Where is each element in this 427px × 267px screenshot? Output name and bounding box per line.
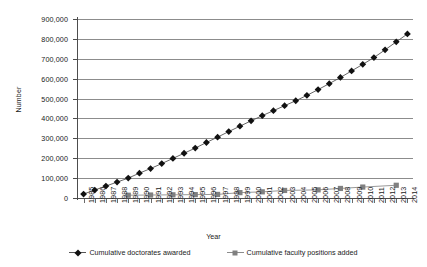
- x-axis-tick-label: 2014: [410, 187, 419, 203]
- x-axis-tick-mark: [407, 199, 408, 203]
- x-axis-tick-mark: [340, 199, 341, 203]
- legend-label-faculty: Cumulative faculty positions added: [247, 248, 358, 257]
- data-point-diamond: [181, 150, 188, 157]
- data-series-layer: [78, 19, 413, 198]
- y-axis-tick-mark: [73, 59, 78, 60]
- x-axis-tick-mark: [218, 199, 219, 203]
- data-point-diamond: [248, 117, 255, 124]
- y-axis-tick-label: 500,000: [41, 94, 68, 103]
- y-axis-tick-label: 900,000: [41, 15, 68, 24]
- x-axis-tick-mark: [385, 199, 386, 203]
- x-axis-tick-mark: [318, 199, 319, 203]
- y-axis-tick-mark: [73, 79, 78, 80]
- data-point-diamond: [371, 54, 378, 61]
- data-point-diamond: [259, 112, 266, 119]
- y-axis-tick-label: 600,000: [41, 74, 68, 83]
- x-axis-tick-mark: [251, 199, 252, 203]
- x-axis-tick-mark: [240, 199, 241, 203]
- diamond-marker-icon: [69, 249, 86, 257]
- x-axis-tick-mark: [262, 199, 263, 203]
- data-point-diamond: [170, 155, 177, 162]
- data-point-diamond: [292, 97, 299, 104]
- data-point-diamond: [114, 179, 121, 186]
- x-axis-tick-mark: [139, 199, 140, 203]
- data-point-diamond: [337, 74, 344, 81]
- data-point-diamond: [237, 123, 244, 130]
- x-axis-tick-mark: [173, 199, 174, 203]
- x-axis-tick-mark: [151, 199, 152, 203]
- data-point-diamond: [203, 139, 210, 146]
- data-point-diamond: [281, 102, 288, 109]
- square-marker-icon: [227, 249, 244, 257]
- data-point-diamond: [304, 92, 311, 99]
- data-point-diamond: [125, 175, 132, 182]
- x-axis-tick-mark: [106, 199, 107, 203]
- x-axis-tick-mark: [296, 199, 297, 203]
- legend-item-faculty: Cumulative faculty positions added: [227, 248, 358, 257]
- x-axis-tick-mark: [374, 199, 375, 203]
- data-point-diamond: [136, 170, 143, 177]
- y-axis-tick-label: 300,000: [41, 134, 68, 143]
- data-point-diamond: [393, 38, 400, 45]
- data-point-diamond: [326, 80, 333, 87]
- data-point-diamond: [147, 165, 154, 172]
- y-axis-tick-mark: [73, 99, 78, 100]
- x-axis-tick-mark: [229, 199, 230, 203]
- y-axis-tick-labels: 0100,000200,000300,000400,000500,000600,…: [0, 0, 72, 210]
- y-axis-tick-mark: [73, 138, 78, 139]
- y-axis-tick-label: 400,000: [41, 114, 68, 123]
- x-axis-tick-mark: [352, 199, 353, 203]
- data-point-diamond: [382, 46, 389, 53]
- y-axis-tick-mark: [73, 158, 78, 159]
- x-axis-tick-mark: [363, 199, 364, 203]
- y-axis-tick-mark: [73, 178, 78, 179]
- x-axis-tick-mark: [396, 199, 397, 203]
- x-axis-tick-mark: [307, 199, 308, 203]
- x-axis-tick-mark: [95, 199, 96, 203]
- data-point-diamond: [315, 86, 322, 93]
- y-axis-tick-mark: [73, 19, 78, 20]
- y-axis-tick-label: 700,000: [41, 54, 68, 63]
- x-axis-tick-mark: [206, 199, 207, 203]
- legend-label-doctorates: Cumulative doctorates awarded: [89, 248, 190, 257]
- y-axis-tick-label: 100,000: [41, 174, 68, 183]
- data-point-diamond: [80, 191, 87, 198]
- data-point-diamond: [158, 160, 165, 167]
- x-axis-tick-mark: [184, 199, 185, 203]
- x-axis-tick-mark: [117, 199, 118, 203]
- chart-figure: Number 0100,000200,000300,000400,000500,…: [0, 0, 427, 267]
- y-axis-tick-label: 0: [64, 194, 68, 203]
- data-point-diamond: [404, 31, 411, 38]
- x-axis-tick-mark: [84, 199, 85, 203]
- chart-legend: Cumulative doctorates awarded Cumulative…: [0, 248, 427, 257]
- x-axis-tick-mark: [273, 199, 274, 203]
- y-axis-tick-label: 200,000: [41, 154, 68, 163]
- x-axis-tick-mark: [285, 199, 286, 203]
- y-axis-tick-label: 800,000: [41, 34, 68, 43]
- data-point-diamond: [214, 134, 221, 141]
- y-axis-tick-mark: [73, 118, 78, 119]
- legend-item-doctorates: Cumulative doctorates awarded: [69, 248, 190, 257]
- x-axis-title: Year: [0, 232, 427, 241]
- data-point-diamond: [192, 145, 199, 152]
- data-point-diamond: [270, 107, 277, 114]
- data-point-diamond: [225, 128, 232, 135]
- series-line-doctorates: [84, 34, 408, 194]
- x-axis-tick-mark: [162, 199, 163, 203]
- x-axis-tick-mark: [128, 199, 129, 203]
- x-axis-tick-mark: [329, 199, 330, 203]
- y-axis-tick-mark: [73, 198, 78, 199]
- y-axis-tick-mark: [73, 39, 78, 40]
- data-point-diamond: [359, 61, 366, 68]
- data-point-diamond: [348, 68, 355, 75]
- x-axis-tick-mark: [195, 199, 196, 203]
